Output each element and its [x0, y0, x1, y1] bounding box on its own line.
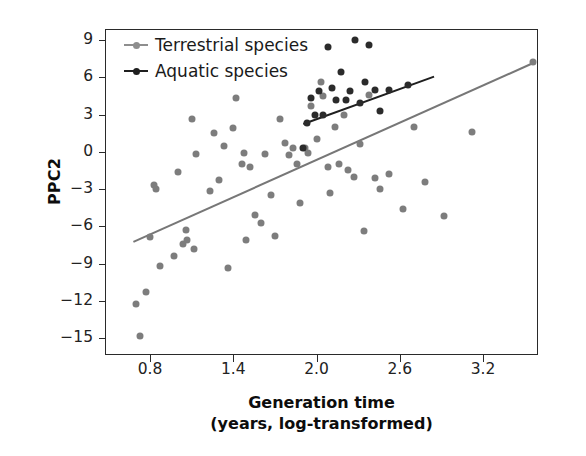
- data-point-aquatic: [320, 111, 327, 118]
- x-axis-title-line2: (years, log-transformed): [105, 413, 538, 434]
- data-point-terrestrial: [147, 234, 154, 241]
- data-point-aquatic: [338, 69, 345, 76]
- legend-label-terrestrial: Terrestrial species: [155, 37, 308, 54]
- data-point-aquatic: [324, 44, 331, 51]
- data-point-terrestrial: [267, 192, 274, 199]
- data-point-terrestrial: [289, 145, 296, 152]
- data-point-terrestrial: [313, 136, 320, 143]
- data-point-aquatic: [332, 96, 339, 103]
- data-point-terrestrial: [258, 219, 265, 226]
- data-point-terrestrial: [238, 161, 245, 168]
- data-point-terrestrial: [183, 226, 190, 233]
- y-tick: [99, 77, 106, 78]
- data-point-terrestrial: [174, 168, 181, 175]
- data-point-terrestrial: [133, 301, 140, 308]
- data-point-aquatic: [366, 41, 373, 48]
- data-point-aquatic: [371, 86, 378, 93]
- data-point-aquatic: [356, 100, 363, 107]
- data-point-terrestrial: [441, 213, 448, 220]
- data-point-terrestrial: [188, 116, 195, 123]
- legend-label-aquatic: Aquatic species: [155, 63, 288, 80]
- data-point-terrestrial: [156, 262, 163, 269]
- x-tick-label: 1.4: [203, 362, 263, 378]
- legend-marker-icon-aquatic: [124, 66, 148, 76]
- data-point-terrestrial: [246, 163, 253, 170]
- data-point-terrestrial: [277, 116, 284, 123]
- data-point-terrestrial: [331, 123, 338, 130]
- y-tick: [99, 264, 106, 265]
- y-tick-label: 9: [83, 32, 93, 48]
- data-point-aquatic: [385, 86, 392, 93]
- data-point-aquatic: [316, 87, 323, 94]
- x-tick-label: 0.8: [120, 362, 180, 378]
- y-tick-label: 6: [83, 69, 93, 85]
- data-point-terrestrial: [242, 236, 249, 243]
- data-point-terrestrial: [317, 79, 324, 86]
- x-tick-label: 2.6: [370, 362, 430, 378]
- data-point-terrestrial: [324, 163, 331, 170]
- y-tick-label: −6: [70, 218, 93, 234]
- legend-item-terrestrial: Terrestrial species: [124, 33, 308, 57]
- data-point-terrestrial: [170, 253, 177, 260]
- scatter-plot-figure: 9630−3−6−9−12−15 0.81.42.02.63.2 PPC2 Ge…: [0, 0, 586, 456]
- data-point-terrestrial: [399, 205, 406, 212]
- data-point-aquatic: [307, 95, 314, 102]
- y-tick: [99, 226, 106, 227]
- data-point-terrestrial: [529, 59, 536, 66]
- y-tick-label: −3: [70, 181, 93, 197]
- y-tick-label: 3: [83, 107, 93, 123]
- x-axis-title: Generation time (years, log-transformed): [105, 392, 538, 434]
- data-point-terrestrial: [206, 188, 213, 195]
- data-point-terrestrial: [220, 142, 227, 149]
- data-point-aquatic: [405, 81, 412, 88]
- data-point-terrestrial: [341, 111, 348, 118]
- data-point-terrestrial: [241, 149, 248, 156]
- x-tick-label: 3.2: [453, 362, 513, 378]
- data-point-terrestrial: [421, 178, 428, 185]
- data-point-terrestrial: [191, 245, 198, 252]
- data-point-aquatic: [362, 79, 369, 86]
- data-point-terrestrial: [224, 265, 231, 272]
- data-point-terrestrial: [271, 233, 278, 240]
- data-point-terrestrial: [281, 140, 288, 147]
- data-point-terrestrial: [233, 95, 240, 102]
- data-point-terrestrial: [184, 236, 191, 243]
- legend-marker-icon-terrestrial: [124, 40, 148, 50]
- legend-item-aquatic: Aquatic species: [124, 59, 308, 83]
- data-point-aquatic: [342, 96, 349, 103]
- data-point-terrestrial: [216, 177, 223, 184]
- data-point-terrestrial: [356, 141, 363, 148]
- data-point-terrestrial: [305, 149, 312, 156]
- data-point-terrestrial: [262, 151, 269, 158]
- data-point-terrestrial: [142, 289, 149, 296]
- data-point-terrestrial: [294, 161, 301, 168]
- x-axis-title-line1: Generation time: [105, 392, 538, 413]
- data-point-terrestrial: [335, 161, 342, 168]
- y-tick-label: 0: [83, 144, 93, 160]
- data-point-aquatic: [328, 85, 335, 92]
- data-point-terrestrial: [410, 123, 417, 130]
- data-point-aquatic: [299, 145, 306, 152]
- data-point-aquatic: [312, 111, 319, 118]
- y-tick-label: −15: [60, 330, 93, 346]
- y-tick: [99, 152, 106, 153]
- data-point-terrestrial: [360, 228, 367, 235]
- data-point-terrestrial: [468, 128, 475, 135]
- y-tick: [99, 338, 106, 339]
- data-point-terrestrial: [350, 173, 357, 180]
- y-tick: [99, 301, 106, 302]
- data-point-terrestrial: [285, 152, 292, 159]
- y-tick: [99, 189, 106, 190]
- y-tick: [99, 115, 106, 116]
- data-point-terrestrial: [210, 130, 217, 137]
- y-tick: [99, 40, 106, 41]
- data-point-terrestrial: [296, 199, 303, 206]
- data-point-terrestrial: [192, 151, 199, 158]
- y-tick-label: −12: [60, 293, 93, 309]
- data-point-aquatic: [377, 107, 384, 114]
- x-tick-label: 2.0: [287, 362, 347, 378]
- data-point-aquatic: [352, 37, 359, 44]
- data-point-terrestrial: [307, 102, 314, 109]
- data-point-aquatic: [346, 87, 353, 94]
- y-axis-title: PPC2: [45, 122, 64, 242]
